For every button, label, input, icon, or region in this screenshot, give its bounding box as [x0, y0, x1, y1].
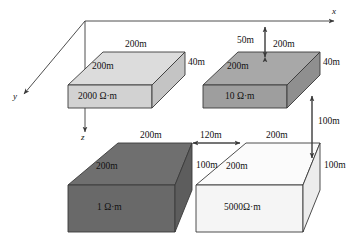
figure-vector-canvas	[0, 0, 357, 247]
block-5000-depth-label: 200m	[226, 162, 248, 172]
block-10-depth-label: 200m	[227, 62, 249, 72]
block-1-thickness-label: 100m	[196, 161, 218, 171]
depth-100m-label: 100m	[318, 117, 340, 127]
block-10-shape	[203, 52, 320, 108]
block-10-burial-label: 50m	[237, 36, 254, 46]
gap-120m-label: 120m	[200, 131, 222, 141]
block-1-resistivity-label: 1 Ω·m	[97, 203, 122, 213]
z-axis-label: z	[81, 133, 85, 142]
block-5000-resistivity-label: 5000Ω·m	[224, 203, 261, 213]
block-1-top-face	[68, 143, 192, 185]
block-1-depth-label: 200m	[96, 162, 118, 172]
block-5000-shape	[196, 143, 320, 232]
block-2000-resistivity-label: 2000 Ω·m	[78, 92, 117, 102]
block-5000-thickness-label: 100m	[324, 161, 346, 171]
block-10-thickness-label: 40m	[323, 58, 340, 68]
y-axis-label: y	[13, 92, 17, 101]
block-model-figure: x y z 200m 200m 40m 2000 Ω·m 200m 200m 4…	[0, 0, 357, 247]
block-2000-width-label: 200m	[125, 40, 147, 50]
block-5000-width-label: 200m	[266, 131, 288, 141]
block-1-width-label: 200m	[140, 131, 162, 141]
block-1-shape	[68, 143, 192, 232]
block-2000-depth-label: 200m	[92, 62, 114, 72]
block-10-width-label: 200m	[273, 40, 295, 50]
block-2000-thickness-label: 40m	[188, 58, 205, 68]
x-axis-label: x	[332, 7, 336, 16]
block-10-resistivity-label: 10 Ω·m	[225, 92, 255, 102]
